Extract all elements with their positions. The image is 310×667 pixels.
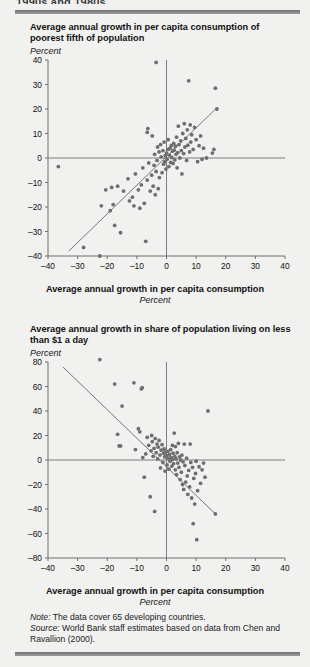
source-text: World Bank staff estimates based on data… — [30, 623, 280, 644]
svg-text:–40: –40 — [28, 504, 42, 514]
svg-text:10: 10 — [191, 261, 201, 271]
chart-xlabel-bottom: Average annual growth in per capita cons… — [0, 586, 310, 596]
svg-text:–30: –30 — [28, 227, 42, 237]
svg-text:0: 0 — [37, 153, 42, 163]
chart-title-bottom: Average annual growth in share of popula… — [30, 324, 292, 347]
svg-text:30: 30 — [33, 80, 43, 90]
running-head: 1990s and 1980s — [16, 0, 106, 4]
chart-xunit-top: Percent — [0, 295, 310, 305]
svg-text:40: 40 — [280, 261, 290, 271]
svg-text:20: 20 — [33, 431, 43, 441]
svg-text:20: 20 — [221, 261, 231, 271]
svg-text:20: 20 — [221, 563, 231, 573]
svg-text:–20: –20 — [100, 261, 114, 271]
svg-text:80: 80 — [33, 357, 43, 367]
svg-text:20: 20 — [33, 104, 43, 114]
svg-text:–20: –20 — [28, 202, 42, 212]
svg-text:40: 40 — [33, 55, 43, 65]
note-line: Note: The data cover 65 developing count… — [30, 612, 292, 623]
bottom-rule — [15, 652, 300, 656]
svg-text:–20: –20 — [28, 480, 42, 490]
svg-text:60: 60 — [33, 382, 43, 392]
svg-text:40: 40 — [280, 563, 290, 573]
svg-text:–20: –20 — [100, 563, 114, 573]
chart-title-top: Average annual growth in per capita cons… — [30, 22, 292, 45]
scatter-plot-bottom: –80–60–40–20020406080–40–30–20–100102030… — [22, 356, 290, 582]
svg-text:10: 10 — [33, 129, 43, 139]
svg-text:–40: –40 — [41, 261, 55, 271]
svg-text:–30: –30 — [71, 261, 85, 271]
figure-page: 1990s and 1980s Average annual growth in… — [0, 0, 310, 667]
source-label: Source: — [30, 623, 60, 633]
source-line: Source: World Bank staff estimates based… — [30, 623, 292, 645]
scatter-plot-top: –40–30–20–10010203040–40–30–20–100102030… — [22, 54, 290, 280]
svg-text:–80: –80 — [28, 553, 42, 563]
figure-notes: Note: The data cover 65 developing count… — [30, 612, 292, 646]
svg-text:40: 40 — [33, 406, 43, 416]
note-label: Note: — [30, 612, 51, 622]
svg-text:0: 0 — [164, 261, 169, 271]
svg-text:–10: –10 — [130, 563, 144, 573]
svg-text:–30: –30 — [71, 563, 85, 573]
chart-panel-bottom: Average annual growth in share of popula… — [0, 324, 310, 624]
svg-text:–40: –40 — [28, 251, 42, 261]
chart-xlabel-top: Average annual growth in per capita cons… — [0, 284, 310, 294]
svg-text:10: 10 — [191, 563, 201, 573]
top-rule — [15, 10, 300, 14]
svg-text:30: 30 — [251, 563, 261, 573]
svg-text:0: 0 — [37, 455, 42, 465]
svg-text:0: 0 — [164, 563, 169, 573]
svg-text:–10: –10 — [130, 261, 144, 271]
chart-xunit-bottom: Percent — [0, 597, 310, 607]
svg-text:–10: –10 — [28, 178, 42, 188]
note-text: The data cover 65 developing countries. — [51, 612, 206, 622]
svg-text:–60: –60 — [28, 529, 42, 539]
svg-text:30: 30 — [251, 261, 261, 271]
svg-text:–40: –40 — [41, 563, 55, 573]
chart-panel-top: Average annual growth in per capita cons… — [0, 22, 310, 322]
